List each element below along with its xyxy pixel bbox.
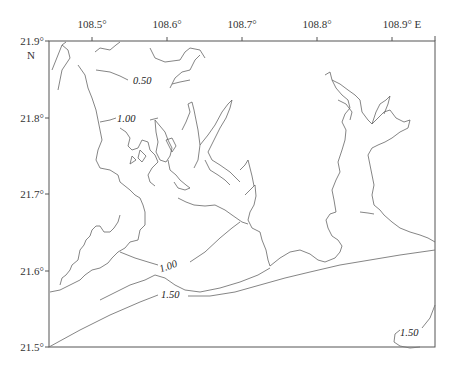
lat-label-21-5: 21.5° xyxy=(20,341,44,353)
map-frame xyxy=(49,41,435,347)
lon-label-108-8: 108.8° xyxy=(302,18,331,30)
contour-labels: 0.50 1.00 1.00 1.50 1.50 xyxy=(117,75,419,338)
contour-1-00-south xyxy=(120,222,240,265)
axis-ticks xyxy=(45,36,435,347)
contour-1-50-main xyxy=(49,250,435,347)
lon-label-108-5: 108.5° xyxy=(77,18,106,30)
lon-label-108-9: 108.9° E xyxy=(383,18,422,30)
lon-label-108-7: 108.7° xyxy=(227,18,256,30)
lat-label-21-7: 21.7° xyxy=(20,188,44,200)
lat-label-21-8: 21.8° xyxy=(20,112,44,124)
contour-label-1-00-north: 1.00 xyxy=(117,113,136,124)
contour-label-0-50: 0.50 xyxy=(133,75,152,86)
coastline xyxy=(50,42,435,300)
map-canvas: 0.50 1.00 1.00 1.50 1.50 xyxy=(0,0,454,369)
contour-label-1-50-main: 1.50 xyxy=(161,289,180,300)
lat-hemisphere-label: N xyxy=(27,49,35,61)
lon-label-108-6: 108.6° xyxy=(152,18,181,30)
lat-label-21-6: 21.6° xyxy=(20,265,44,277)
contour-lines xyxy=(49,70,435,348)
contour-label-1-00-south: 1.00 xyxy=(158,258,180,275)
contour-label-1-50-east: 1.50 xyxy=(400,327,419,338)
lat-label-21-9: 21.9° xyxy=(20,35,44,47)
